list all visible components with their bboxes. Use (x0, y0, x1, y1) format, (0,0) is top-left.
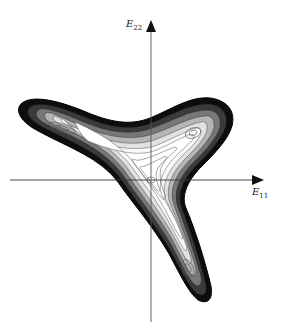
y-axis-arrow-icon (146, 20, 156, 32)
contour-plot (0, 0, 282, 327)
x-axis-arrow-icon (252, 175, 264, 185)
y-axis-label-sub: 22 (133, 24, 142, 32)
contour-shape (19, 98, 233, 302)
x-axis-label: E11 (252, 186, 268, 200)
y-axis-label: E22 (126, 18, 142, 32)
x-axis-label-sub: 11 (259, 192, 268, 200)
